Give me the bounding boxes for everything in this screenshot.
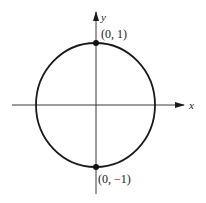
y-axis-label: y — [100, 11, 106, 23]
point-bottom-label: (0, −1) — [98, 172, 131, 186]
unit-circle-diagram: y x (0, 1) (0, −1) — [0, 0, 206, 203]
x-axis-label: x — [188, 99, 194, 111]
point-bottom — [93, 164, 99, 170]
point-top-label: (0, 1) — [101, 27, 127, 41]
point-top — [93, 40, 99, 46]
